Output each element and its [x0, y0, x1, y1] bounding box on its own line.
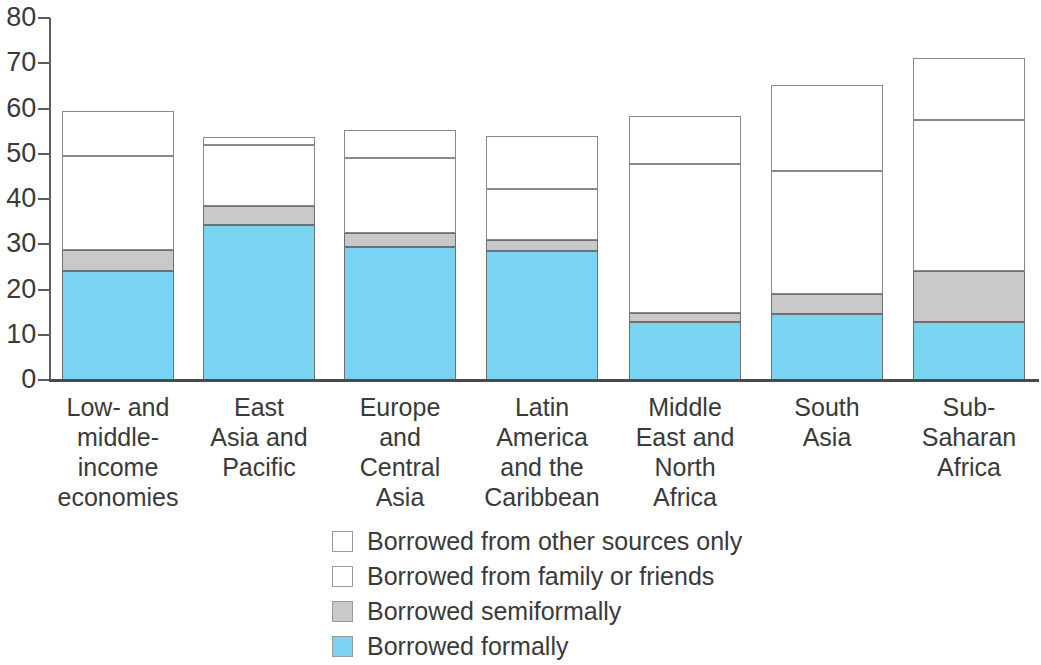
bar-segment-family[interactable]: [629, 164, 741, 313]
bar-segment-formal[interactable]: [771, 314, 883, 380]
bar-segment-formal[interactable]: [486, 251, 598, 380]
x-axis-label-line: Caribbean: [464, 482, 620, 512]
x-axis-label-line: Sub-: [891, 392, 1041, 422]
bar-segment-semiformal[interactable]: [62, 250, 174, 272]
x-axis-label-line: Saharan: [891, 422, 1041, 452]
x-axis-label-line: East and: [607, 422, 763, 452]
x-axis-label-line: East: [181, 392, 337, 422]
bar-segment-semiformal[interactable]: [486, 240, 598, 250]
stacked-bar-chart: 80706050403020100 Low- andmiddle-incomee…: [0, 0, 1041, 665]
bar-segment-family[interactable]: [913, 120, 1025, 272]
legend-label: Borrowed semiformally: [367, 597, 621, 625]
legend-item-formal[interactable]: Borrowed formally: [332, 629, 932, 663]
x-axis-category-label: EastAsia andPacific: [181, 392, 337, 482]
bar-segment-semiformal[interactable]: [771, 294, 883, 314]
x-axis-label-line: Asia: [749, 422, 905, 452]
x-axis-label-line: economies: [40, 482, 196, 512]
x-axis-label-line: South: [749, 392, 905, 422]
x-axis-category-label: SouthAsia: [749, 392, 905, 452]
x-axis-category-label: LatinAmericaand theCaribbean: [464, 392, 620, 512]
x-axis-label-line: Asia and: [181, 422, 337, 452]
bar-group[interactable]: [203, 0, 315, 380]
x-axis-label-line: Latin: [464, 392, 620, 422]
bar-segment-formal[interactable]: [62, 271, 174, 380]
legend-item-family[interactable]: Borrowed from family or friends: [332, 559, 932, 593]
bar-segment-formal[interactable]: [913, 322, 1025, 380]
x-axis-label-line: Pacific: [181, 452, 337, 482]
bar-segment-formal[interactable]: [203, 225, 315, 380]
legend-swatch-other: [332, 531, 353, 552]
bar-segment-other[interactable]: [629, 116, 741, 164]
legend-label: Borrowed formally: [367, 632, 568, 660]
bar-group[interactable]: [629, 0, 741, 380]
bar-segment-formal[interactable]: [629, 322, 741, 380]
x-axis-category-label: Low- andmiddle-incomeeconomies: [40, 392, 196, 512]
x-axis-label-line: Middle: [607, 392, 763, 422]
bar-segment-family[interactable]: [771, 171, 883, 294]
bar-segment-semiformal[interactable]: [203, 206, 315, 225]
x-axis-label-line: Africa: [891, 452, 1041, 482]
bar-segment-other[interactable]: [771, 85, 883, 171]
x-axis-line: [49, 379, 1039, 382]
legend-swatch-semiformal: [332, 601, 353, 622]
bar-segment-semiformal[interactable]: [629, 313, 741, 322]
legend-label: Borrowed from other sources only: [367, 527, 742, 555]
legend-item-other[interactable]: Borrowed from other sources only: [332, 524, 932, 558]
bar-segment-family[interactable]: [486, 189, 598, 241]
x-axis-label-line: Europe: [322, 392, 478, 422]
bar-group[interactable]: [771, 0, 883, 380]
bar-segment-other[interactable]: [344, 130, 456, 159]
bar-segment-family[interactable]: [203, 145, 315, 206]
legend-item-semiformal[interactable]: Borrowed semiformally: [332, 594, 932, 628]
bar-segment-family[interactable]: [344, 158, 456, 233]
bar-group[interactable]: [913, 0, 1025, 380]
x-axis-label-line: Asia: [322, 482, 478, 512]
bar-segment-formal[interactable]: [344, 247, 456, 380]
legend-swatch-family: [332, 566, 353, 587]
x-axis-category-label: EuropeandCentralAsia: [322, 392, 478, 512]
bar-segment-other[interactable]: [203, 137, 315, 145]
x-axis-label-line: America: [464, 422, 620, 452]
chart-legend: Borrowed from other sources onlyBorrowed…: [332, 524, 932, 664]
x-axis-label-line: Africa: [607, 482, 763, 512]
bar-segment-family[interactable]: [62, 156, 174, 250]
bar-segment-semiformal[interactable]: [913, 271, 1025, 321]
bar-group[interactable]: [344, 0, 456, 380]
bars-layer: [0, 0, 1041, 380]
bar-segment-semiformal[interactable]: [344, 233, 456, 247]
x-axis-label-line: income: [40, 452, 196, 482]
x-axis-label-line: Low- and: [40, 392, 196, 422]
bar-segment-other[interactable]: [62, 111, 174, 156]
legend-label: Borrowed from family or friends: [367, 562, 714, 590]
x-axis-category-label: MiddleEast andNorthAfrica: [607, 392, 763, 512]
x-axis-label-line: North: [607, 452, 763, 482]
x-axis-label-line: and: [322, 422, 478, 452]
bar-segment-other[interactable]: [486, 136, 598, 188]
x-axis-label-line: Central: [322, 452, 478, 482]
bar-group[interactable]: [62, 0, 174, 380]
x-axis-category-label: Sub-SaharanAfrica: [891, 392, 1041, 482]
x-axis-label-line: and the: [464, 452, 620, 482]
bar-segment-other[interactable]: [913, 58, 1025, 120]
legend-swatch-formal: [332, 636, 353, 657]
x-axis-label-line: middle-: [40, 422, 196, 452]
bar-group[interactable]: [486, 0, 598, 380]
